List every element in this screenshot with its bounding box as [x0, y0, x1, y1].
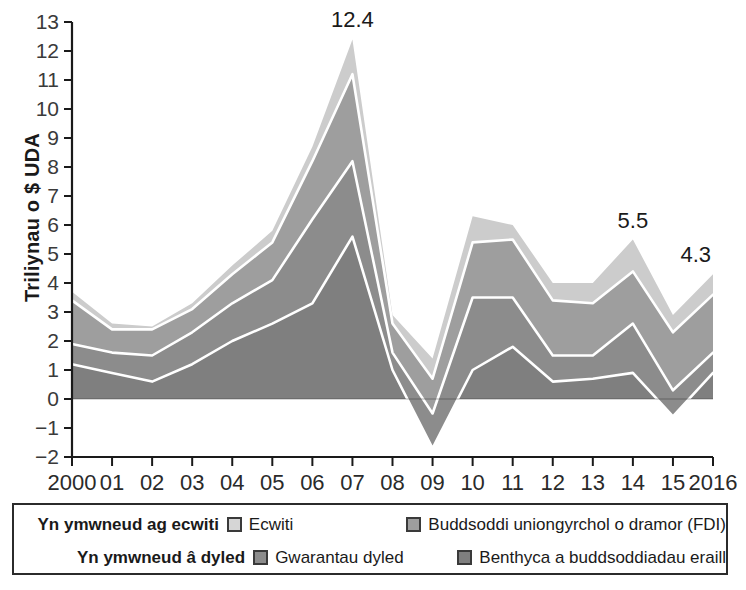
legend-category-label: Yn ymwneud ag ecwiti	[28, 515, 219, 535]
legend-swatch-icon	[227, 517, 242, 532]
legend-row: Yn ymwneud ag ecwiti Ecwiti Buddsoddi un…	[14, 508, 726, 541]
y-tick-label: 1	[47, 358, 59, 381]
x-tick-label: 04	[220, 470, 244, 495]
x-tick-label: 06	[300, 470, 324, 495]
x-axis-ticks: 20000102030405060708091011121314152016	[48, 457, 738, 495]
legend-swatch-icon	[457, 550, 472, 565]
legend-item-label: Gwarantau dyled	[275, 548, 404, 568]
legend-item-ecwiti[interactable]: Ecwiti	[219, 515, 398, 535]
x-tick-label: 15	[661, 470, 685, 495]
area-series-group	[72, 39, 713, 448]
x-tick-label: 2016	[689, 470, 738, 495]
x-tick-label: 2000	[48, 470, 97, 495]
y-tick-label: 4	[47, 271, 59, 294]
y-tick-label: 12	[36, 39, 59, 62]
y-tick-label: 8	[47, 155, 59, 178]
y-tick-label: −2	[35, 445, 59, 468]
legend-item-benthyca[interactable]: Benthyca a buddsoddiadau eraill	[449, 548, 726, 568]
data-point-annotation: 4.3	[680, 242, 711, 267]
chart-figure: Triliynau o $ UDA −2−1012345678910111213…	[0, 0, 746, 590]
data-annotations: 12.45.54.3	[331, 7, 711, 267]
y-tick-label: 10	[36, 97, 59, 120]
y-tick-label: −1	[35, 416, 59, 439]
x-tick-label: 10	[460, 470, 484, 495]
y-tick-label: 3	[47, 300, 59, 323]
legend-swatch-icon	[406, 517, 421, 532]
chart-legend: Yn ymwneud ag ecwiti Ecwiti Buddsoddi un…	[12, 503, 728, 575]
x-tick-label: 02	[140, 470, 164, 495]
stacked-area-plot: −2−1012345678910111213 20000102030405060…	[0, 0, 746, 500]
x-tick-label: 05	[260, 470, 284, 495]
y-tick-label: 7	[47, 184, 59, 207]
legend-item-label: Benthyca a buddsoddiadau eraill	[479, 548, 726, 568]
y-axis-ticks: −2−1012345678910111213	[35, 10, 72, 468]
x-tick-label: 08	[380, 470, 404, 495]
legend-item-label: Buddsoddi uniongyrchol o dramor (FDI)	[428, 515, 726, 535]
y-tick-label: 6	[47, 213, 59, 236]
x-tick-label: 14	[621, 470, 645, 495]
x-tick-label: 03	[180, 470, 204, 495]
y-tick-label: 5	[47, 242, 59, 265]
data-point-annotation: 5.5	[618, 208, 649, 233]
x-tick-label: 09	[420, 470, 444, 495]
legend-item-fdi[interactable]: Buddsoddi uniongyrchol o dramor (FDI)	[398, 515, 726, 535]
data-point-annotation: 12.4	[331, 7, 374, 32]
legend-swatch-icon	[253, 550, 268, 565]
legend-row: Yn ymwneud â dyled Gwarantau dyled Benth…	[14, 541, 726, 574]
y-tick-label: 2	[47, 329, 59, 352]
y-tick-label: 13	[36, 10, 59, 33]
x-tick-label: 11	[501, 470, 524, 495]
x-tick-label: 13	[581, 470, 605, 495]
y-tick-label: 9	[47, 126, 59, 149]
legend-item-label: Ecwiti	[249, 515, 293, 535]
x-tick-label: 12	[541, 470, 565, 495]
x-tick-label: 07	[340, 470, 364, 495]
x-tick-label: 01	[100, 470, 124, 495]
y-tick-label: 11	[37, 68, 59, 91]
legend-category-label: Yn ymwneud â dyled	[28, 548, 245, 568]
legend-item-gwarantau-dyled[interactable]: Gwarantau dyled	[245, 548, 449, 568]
y-tick-label: 0	[47, 387, 59, 410]
